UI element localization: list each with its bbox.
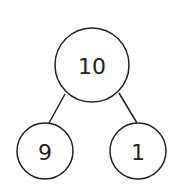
number-bond-diagram: 10 9 1 [0, 0, 182, 193]
whole-label: 10 [78, 54, 106, 79]
left-part-label: 9 [38, 140, 52, 165]
whole-node: 10 [55, 28, 129, 102]
right-part-label: 1 [131, 140, 145, 165]
edge-whole-to-right-part [119, 93, 137, 123]
right-part-node: 1 [110, 123, 166, 179]
edge-whole-to-left-part [49, 94, 65, 123]
left-part-node: 9 [17, 123, 73, 179]
